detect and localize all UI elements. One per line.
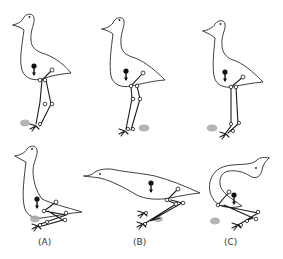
bird-posture-b xyxy=(84,169,200,229)
bird-standing-1 xyxy=(13,14,71,131)
center-of-mass-icon xyxy=(222,69,227,82)
bird-posture-figure xyxy=(0,0,283,259)
bird-posture-c xyxy=(209,157,269,230)
shadow-marker xyxy=(139,125,150,132)
shadow-marker xyxy=(30,216,40,223)
shadow-marker xyxy=(20,120,30,127)
center-of-mass-icon xyxy=(148,180,153,193)
center-of-mass-icon xyxy=(123,68,128,81)
bird-standing-3 xyxy=(203,21,263,139)
bird-standing-2 xyxy=(102,18,165,136)
center-of-mass-icon xyxy=(34,196,39,209)
shadow-marker xyxy=(210,218,220,225)
bird-posture-a xyxy=(15,146,82,231)
shadow-marker xyxy=(207,125,218,132)
panel-label-a: (A) xyxy=(38,237,51,247)
panel-label-c: (C) xyxy=(224,237,237,247)
center-of-mass-icon xyxy=(31,63,36,76)
panel-label-b: (B) xyxy=(133,237,146,247)
